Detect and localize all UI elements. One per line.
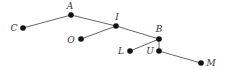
node-o xyxy=(78,36,84,42)
node-m xyxy=(198,60,204,66)
node-label-i: I xyxy=(114,12,119,22)
nodes-group xyxy=(20,12,204,66)
tree-diagram: CAIOBLUM xyxy=(0,0,228,70)
node-label-l: L xyxy=(117,46,124,56)
node-label-c: C xyxy=(11,23,18,33)
edge-u-m xyxy=(159,51,201,63)
edge-c-a xyxy=(23,15,71,28)
node-label-u: U xyxy=(146,46,154,56)
node-c xyxy=(20,25,26,31)
node-u xyxy=(156,48,162,54)
node-label-b: B xyxy=(155,24,163,34)
edges-group xyxy=(23,15,201,63)
node-a xyxy=(68,12,74,18)
node-label-o: O xyxy=(67,35,75,45)
node-i xyxy=(113,23,119,29)
node-label-m: M xyxy=(205,58,216,68)
node-b xyxy=(156,36,162,42)
edge-b-l xyxy=(130,39,159,51)
labels-group: CAIOBLUM xyxy=(11,1,217,68)
node-l xyxy=(127,48,133,54)
node-label-a: A xyxy=(66,1,74,11)
edge-i-b xyxy=(116,26,159,39)
edge-i-o xyxy=(81,26,116,39)
edge-a-i xyxy=(71,15,116,26)
